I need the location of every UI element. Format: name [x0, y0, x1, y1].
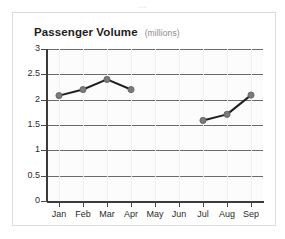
chart-card: Passenger Volume(millions) 32.521.510.50…: [12, 12, 276, 226]
y-axis-tick-label: 3: [16, 44, 40, 53]
y-axis-tick-label: 0.5: [16, 171, 40, 180]
x-axis-tick: [83, 202, 84, 207]
data-point-marker[interactable]: [248, 92, 254, 98]
data-point-marker[interactable]: [224, 111, 230, 117]
data-point-marker[interactable]: [200, 117, 206, 123]
y-axis-tick-label: 2: [16, 95, 40, 104]
y-axis-tick: [41, 150, 47, 151]
chart-title: Passenger Volume: [34, 26, 138, 38]
y-axis-tick-label: 1: [16, 145, 40, 154]
y-axis-tick-label: 2.5: [16, 69, 40, 78]
x-axis-tick-label: Sep: [231, 209, 271, 219]
data-point-marker[interactable]: [128, 86, 134, 92]
x-axis-tick: [155, 202, 156, 207]
series-line-segment: [59, 79, 131, 95]
data-series-layer: [47, 49, 263, 201]
data-point-marker[interactable]: [80, 86, 86, 92]
y-axis-labels: 32.521.510.50: [13, 13, 40, 227]
chart-subtitle-units: (millions): [145, 28, 180, 38]
x-axis-tick: [227, 202, 228, 207]
top-cutoff-text: ...: [0, 0, 285, 11]
y-axis-tick: [41, 100, 47, 101]
y-axis-tick: [41, 74, 47, 75]
y-axis-tick: [41, 125, 47, 126]
x-axis-tick: [131, 202, 132, 207]
y-axis-tick-label: 0: [16, 196, 40, 205]
data-point-marker[interactable]: [56, 93, 62, 99]
chart-header: Passenger Volume(millions): [34, 22, 180, 40]
x-axis-tick: [59, 202, 60, 207]
y-axis-tick-label: 1.5: [16, 120, 40, 129]
y-axis-tick: [41, 49, 47, 50]
x-axis-tick: [107, 202, 108, 207]
y-axis-tick: [41, 201, 47, 202]
data-point-marker[interactable]: [104, 76, 110, 82]
x-axis-tick: [179, 202, 180, 207]
x-axis-tick: [251, 202, 252, 207]
x-axis-tick: [203, 202, 204, 207]
y-axis-tick: [41, 176, 47, 177]
